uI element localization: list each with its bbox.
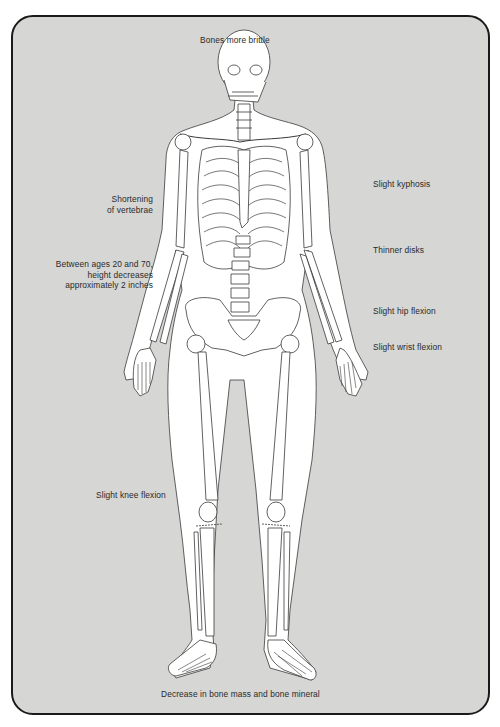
skeleton-illustration [0,0,500,727]
label-shortening-line1: Shortening [70,194,153,205]
label-shortening-vertebrae: Shortening of vertebrae [70,194,153,215]
label-height-line1: Between ages 20 and 70, [30,259,153,270]
kneecap-right [267,502,285,522]
left-hand [133,348,156,396]
label-bones-brittle: Bones more brittle [200,35,270,46]
label-height-line3: approximately 2 inches [30,280,153,291]
label-thinner-disks: Thinner disks [373,245,424,256]
label-kyphosis: Slight kyphosis [373,179,430,190]
caption-bone-mass: Decrease in bone mass and bone mineral [161,689,320,700]
label-height-line2: height decreases [30,270,153,281]
jaw [224,80,266,102]
kneecap-left [199,502,217,522]
label-hip-flexion: Slight hip flexion [373,306,436,317]
label-wrist-flexion: Slight wrist flexion [373,342,442,353]
label-height-decrease: Between ages 20 and 70, height decreases… [30,259,153,291]
label-shortening-line2: of vertebrae [70,205,153,216]
label-knee-flexion: Slight knee flexion [96,490,166,501]
